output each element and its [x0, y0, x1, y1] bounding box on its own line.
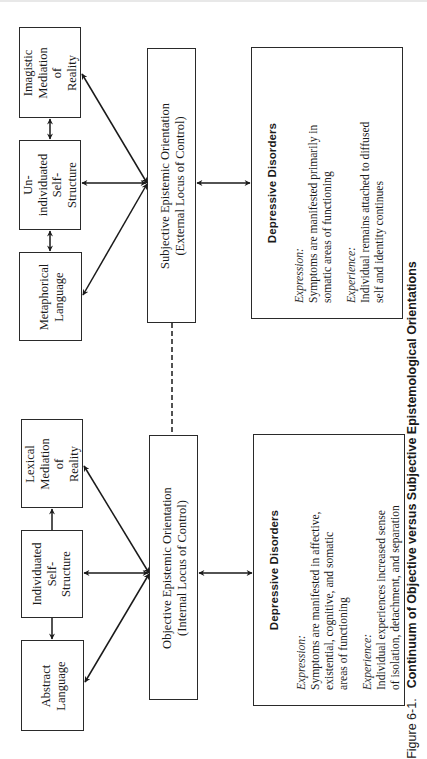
expression-label: Expression: — [295, 512, 309, 690]
imagistic-mediation-box: Imagistic Mediation of Reality — [19, 27, 81, 118]
double-arrow — [82, 74, 147, 183]
box-text: Reality — [65, 54, 80, 90]
abstract-language-box: Abstract Language — [21, 640, 84, 731]
experience-text: self and identity continues — [373, 122, 387, 303]
double-arrow — [85, 574, 149, 682]
unindividuated-self-structure-box: Un- individuated Self- Structure — [19, 140, 81, 230]
double-arrow — [83, 184, 147, 295]
expression-text: Symptoms are manifested in affective, — [309, 512, 323, 690]
box-text: Lexical — [23, 445, 38, 482]
box-text: Individuated — [30, 542, 45, 605]
experience-section: Experience: Individual experiences incre… — [361, 505, 403, 690]
box-text: individuated — [36, 154, 51, 217]
box-text: Structure — [59, 551, 74, 597]
expression-text: existential, cognitive, and somatic — [323, 512, 337, 690]
objective-depressive-disorders-box: Depressive Disorders Expression: Symptom… — [253, 434, 405, 706]
box-text: Imagistic — [21, 49, 36, 96]
experience-text: Individual experiences increased sense — [375, 505, 389, 690]
expression-label: Expression: — [293, 125, 307, 303]
experience-text: Individual remains attached to diffused — [359, 122, 373, 303]
individuated-self-structure-box: Individuated Self- Structure — [21, 530, 83, 618]
box-text: Subjective Epistemic Orientation — [157, 103, 172, 269]
box-text: Self- — [50, 173, 65, 197]
experience-label: Experience: — [345, 122, 359, 303]
double-arrow — [84, 466, 149, 573]
box-text: Mediation — [38, 438, 53, 489]
box-text: Language — [53, 661, 68, 710]
expression-text: Symptoms are manifested primarily in — [307, 125, 321, 303]
expression-section: Expression: Symptoms are manifested prim… — [293, 125, 335, 303]
figure-title: Continuum of Objective versus Subjective… — [405, 261, 419, 688]
expression-text: somatic areas of functioning — [321, 125, 335, 303]
disorders-title: Depressive Disorders — [265, 123, 279, 243]
subjective-depressive-disorders-box: Depressive Disorders Expression: Symptom… — [251, 47, 403, 319]
figure-number: Figure 6-1. — [405, 698, 419, 758]
box-text: Objective Epistemic Orientation — [159, 487, 174, 649]
expression-text: areas of functioning — [337, 512, 351, 690]
page-edge — [0, 0, 427, 2]
box-text: Self- — [45, 562, 60, 586]
box-text: Structure — [65, 162, 80, 208]
subjective-orientation-box: Subjective Epistemic Orientation (Extern… — [147, 48, 196, 323]
metaphorical-language-box: Metaphorical Language — [19, 252, 82, 341]
experience-label: Experience: — [361, 505, 375, 690]
box-text: of — [50, 67, 65, 77]
box-text: Reality — [67, 445, 82, 481]
box-text: Un- — [21, 175, 36, 194]
box-text: Language — [51, 272, 66, 321]
figure-caption: Figure 6-1.Continuum of Objective versus… — [405, 261, 419, 759]
lexical-mediation-box: Lexical Mediation of Reality — [21, 419, 83, 508]
box-text: Abstract — [38, 664, 53, 706]
box-text: Metaphorical — [36, 263, 51, 330]
expression-section: Expression: Symptoms are manifested in a… — [295, 512, 351, 690]
experience-section: Experience: Individual remains attached … — [345, 122, 387, 303]
box-text: of — [52, 458, 67, 468]
box-text: (External Locus of Control) — [172, 116, 187, 255]
disorders-title: Depressive Disorders — [267, 510, 281, 630]
objective-orientation-box: Objective Epistemic Orientation (Interna… — [149, 435, 198, 700]
box-text: (Internal Locus of Control) — [174, 500, 189, 636]
experience-text: of isolation, detachment, and separation — [389, 505, 403, 690]
box-text: Mediation — [36, 47, 51, 98]
